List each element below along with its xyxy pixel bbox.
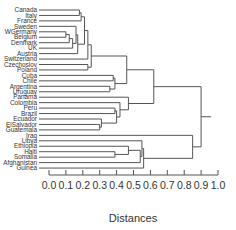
x-tick-label: 0.1	[59, 179, 74, 191]
dendrogram-links	[39, 10, 211, 168]
x-tick-label: 0.7	[160, 179, 175, 191]
x-tick-label: 0.2	[75, 179, 90, 191]
x-tick-label: 1.0	[211, 179, 226, 191]
dendrogram-chart: CanadaItalyFranceSwedenWGermanyBelgiumDe…	[0, 0, 236, 230]
x-tick-label: 0.6	[143, 179, 158, 191]
x-axis: 0.00.10.20.30.40.50.60.70.80.91.0	[42, 170, 226, 191]
leaf-labels: CanadaItalyFranceSwedenWGermanyBelgiumDe…	[3, 6, 38, 171]
leaf-label: Guinea	[16, 164, 37, 171]
x-axis-title: Distances	[109, 212, 158, 224]
x-tick-label: 0.4	[109, 179, 124, 191]
x-tick-label: 0.5	[126, 179, 141, 191]
x-tick-label: 0.9	[194, 179, 209, 191]
x-tick-label: 0.3	[92, 179, 107, 191]
x-tick-label: 0.0	[42, 179, 57, 191]
x-tick-label: 0.8	[177, 179, 192, 191]
